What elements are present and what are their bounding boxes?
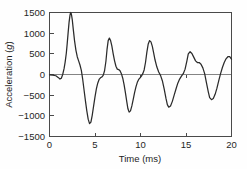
y-tick-label-500: 500 [29, 48, 45, 59]
y-axis-title-suffix: ) [3, 41, 14, 44]
y-tick-label-neg500: −500 [24, 90, 45, 101]
y-axis-title: Acceleration (g) [3, 41, 14, 108]
x-tick-label-15: 15 [181, 139, 192, 150]
y-tick-label-1500: 1500 [24, 7, 45, 18]
y-tick-label-1000: 1000 [24, 28, 45, 39]
y-tick-label-neg1500: −1500 [18, 131, 45, 142]
chart-figure: 1500 1000 500 0 −500 −1000 −1500 0 5 10 … [0, 0, 247, 169]
x-tick-label-5: 5 [92, 139, 97, 150]
x-tick-label-0: 0 [47, 139, 52, 150]
x-tick-label-20: 20 [226, 139, 237, 150]
y-tick-label-neg1000: −1000 [18, 110, 45, 121]
x-axis-title: Time (ms) [119, 153, 161, 164]
y-tick-label-0: 0 [40, 69, 45, 80]
y-axis-title-prefix: Acceleration ( [3, 49, 14, 108]
acceleration-time-plot: 1500 1000 500 0 −500 −1000 −1500 0 5 10 … [0, 0, 247, 169]
x-tick-label-10: 10 [135, 139, 146, 150]
